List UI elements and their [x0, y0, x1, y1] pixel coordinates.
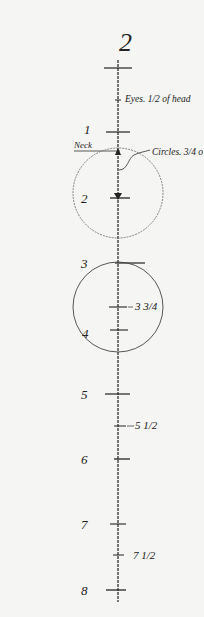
- scale-label-7-1-2: 7 1/2: [133, 549, 155, 561]
- scale-label-8: 8: [81, 583, 88, 599]
- scale-label-4: 4: [82, 326, 89, 342]
- proportion-diagram: 2 Eyes. 1/2 of head Neck Circles. 3/4 o …: [0, 0, 204, 617]
- scale-label-2: 2: [81, 191, 88, 207]
- proportion-scale-drawing: [0, 0, 204, 617]
- scale-label-3-3-4: 3 3/4: [135, 300, 157, 312]
- scale-label-7: 7: [81, 517, 88, 533]
- circles-annotation: Circles. 3/4 o: [152, 147, 203, 157]
- circles-leader-line: [119, 150, 150, 170]
- scale-label-3: 3: [81, 256, 88, 272]
- neck-label: Neck: [74, 140, 92, 150]
- scale-label-5-1-2: 5 1/2: [135, 419, 157, 431]
- scale-label-5: 5: [81, 387, 88, 403]
- scale-label-6: 6: [81, 452, 88, 468]
- arrow-up-icon: [115, 148, 121, 155]
- arrow-down-icon: [114, 193, 122, 200]
- figure-title: 2: [119, 28, 132, 58]
- eyes-annotation: Eyes. 1/2 of head: [125, 94, 190, 104]
- scale-label-1: 1: [84, 122, 91, 138]
